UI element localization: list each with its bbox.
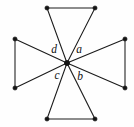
angle-label-c: c <box>54 69 59 81</box>
figure-container: a b c d <box>0 0 134 127</box>
top-right-vertex <box>93 6 97 10</box>
bottom-right-vertex <box>93 117 97 121</box>
left-top-vertex <box>13 37 17 41</box>
top-left-vertex <box>45 6 49 10</box>
angle-label-a: a <box>76 43 82 55</box>
edge-right-bottom-to-center <box>67 63 125 88</box>
center-vertex <box>64 60 69 65</box>
angle-label-d: d <box>51 43 57 55</box>
angle-label-b: b <box>77 70 83 82</box>
vertex-group <box>13 6 127 121</box>
bottom-left-vertex <box>45 117 49 121</box>
right-bottom-vertex <box>123 86 127 90</box>
edge-group <box>15 8 125 119</box>
graph-diagram: a b c d <box>0 0 134 127</box>
right-top-vertex <box>123 37 127 41</box>
edge-top-right-to-center <box>67 8 95 63</box>
left-bottom-vertex <box>13 86 17 90</box>
